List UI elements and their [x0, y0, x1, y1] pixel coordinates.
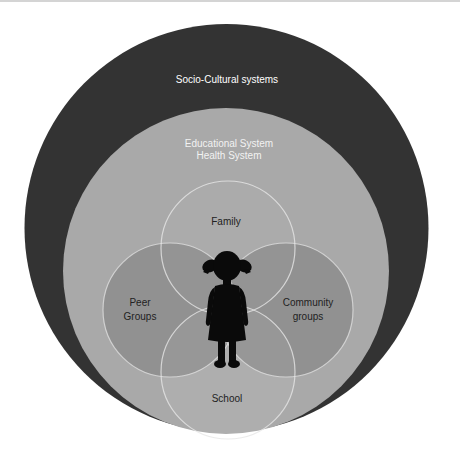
peer-groups-label-line1: Peer: [129, 297, 151, 308]
educational-system-label: Educational System: [185, 138, 273, 149]
socio-cultural-label: Socio-Cultural systems: [176, 74, 278, 85]
peer-groups-label-line2: Groups: [124, 311, 157, 322]
community-groups-label-line1: Community: [283, 297, 334, 308]
ecological-diagram: Socio-Cultural systems Educational Syste…: [0, 0, 460, 459]
community-groups-label-line2: groups: [293, 311, 324, 322]
health-system-label: Health System: [196, 150, 261, 161]
family-label: Family: [211, 216, 240, 227]
school-label: School: [212, 393, 243, 404]
